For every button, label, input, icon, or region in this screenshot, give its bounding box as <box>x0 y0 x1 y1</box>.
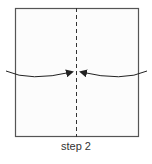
origami-diagram: step 2 <box>0 0 152 164</box>
step-caption: step 2 <box>0 140 152 152</box>
